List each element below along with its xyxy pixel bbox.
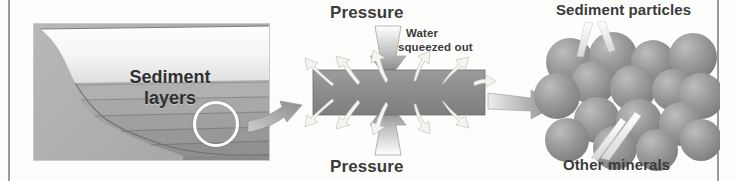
pressure-label-top: Pressure [330, 4, 404, 22]
particles-illustration [505, 0, 720, 181]
panel-cross-section: Sediment layers [33, 23, 270, 161]
sediment-layers-label-line1: Sediment [95, 67, 245, 88]
compaction-illustration [278, 0, 508, 181]
column-rule-left [8, 0, 10, 181]
zoom-circle-marker [193, 101, 239, 147]
sediment-particles-label: Sediment particles [556, 2, 691, 18]
rock-slab [313, 70, 485, 115]
other-minerals-label: Other minerals [563, 157, 670, 173]
sediment-compaction-figure: Sediment layers [0, 0, 736, 181]
panel-particles: Sediment particles Other minerals [505, 0, 720, 181]
panel-compaction: Pressure Pressure Water squeezed out [278, 0, 508, 181]
sediment-particle [534, 73, 580, 119]
water-label-line2: squeezed out [398, 41, 473, 55]
water-squeezed-out-label: Water squeezed out [406, 27, 473, 54]
pressure-label-bottom: Pressure [330, 158, 404, 176]
water-label-line1: Water [406, 27, 473, 41]
